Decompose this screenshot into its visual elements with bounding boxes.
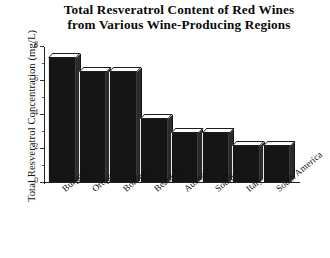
plot-area: 02468 [44, 47, 300, 183]
chart-title: Total Resveratrol Content of Red Wines f… [30, 2, 328, 32]
y-tick-label-4: 4 [24, 108, 38, 117]
bar-bordeaux [109, 66, 137, 183]
bar-top-face [109, 67, 141, 72]
bar-front-face [48, 58, 76, 182]
bar-top-face [263, 141, 295, 146]
y-tick-6: 6 [40, 80, 44, 81]
y-tick-label-6: 6 [24, 74, 38, 83]
y-tick-0: 0 [40, 182, 44, 183]
bar-top-face [48, 53, 80, 58]
chart-figure: Total Resveratrol Content of Red Wines f… [0, 0, 330, 258]
chart-title-line-2: from Various Wine-Producing Regions [30, 17, 328, 32]
y-tick-minor-7 [42, 63, 45, 64]
bar-oregon [79, 66, 107, 183]
chart-title-line-1: Total Resveratrol Content of Red Wines [30, 2, 328, 17]
bar-top-face [79, 67, 111, 72]
y-tick-minor-3 [42, 131, 45, 132]
y-tick-2: 2 [40, 148, 44, 149]
bar-top-face [202, 128, 234, 133]
x-axis-labels: BurgundyOregonBordeauxBeaujolaisAustrali… [44, 186, 330, 256]
bar-front-face [109, 72, 137, 183]
y-tick-label-2: 2 [24, 142, 38, 151]
y-tick-minor-1 [42, 165, 45, 166]
y-tick-4: 4 [40, 114, 44, 115]
y-tick-label-8: 8 [24, 40, 38, 49]
y-tick-label-0: 0 [24, 176, 38, 185]
y-tick-8: 8 [40, 46, 44, 47]
bar-top-face [171, 128, 203, 133]
bar-burgundy [48, 52, 76, 182]
bar-top-face [140, 114, 172, 119]
bar-top-face [232, 141, 264, 146]
y-tick-minor-5 [42, 97, 45, 98]
y-axis-line [44, 47, 45, 184]
